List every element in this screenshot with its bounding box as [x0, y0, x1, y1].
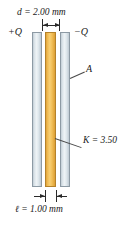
label-charge-positive: +Q [8, 27, 22, 37]
arrowhead-outward-left-icon [40, 194, 45, 198]
arrowhead-left-icon [43, 23, 48, 27]
arrowhead-right-icon [55, 23, 60, 27]
label-charge-negative: −Q [74, 27, 88, 37]
dimension-tick-bottom-left [45, 190, 46, 202]
label-dielectric-constant: K = 3.50 [83, 136, 117, 146]
label-slab-thickness: ℓ = 1.00 mm [15, 205, 63, 215]
leader-line-area [70, 72, 85, 79]
capacitor-dielectric-diagram: d = 2.00 mm +Q −Q A K = 3.50 ℓ = 1.00 mm [0, 0, 136, 227]
arrowhead-outward-right-icon [57, 194, 62, 198]
capacitor-plate-right [60, 32, 70, 187]
dielectric-slab [45, 32, 56, 187]
label-separation: d = 2.00 mm [17, 8, 66, 18]
capacitor-plate-left [32, 32, 42, 187]
label-area: A [86, 64, 92, 74]
